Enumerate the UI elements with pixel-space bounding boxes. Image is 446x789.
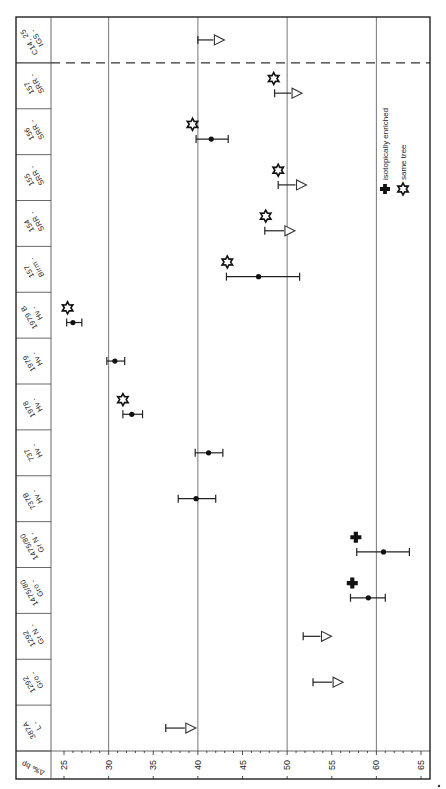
- data-point: [209, 136, 214, 141]
- data-point: [381, 549, 386, 554]
- sample-row: 1292Gr N -: [16, 622, 332, 659]
- lower-limit-triangle-icon: [292, 88, 302, 98]
- sample-label: 157SRR -: [20, 72, 47, 100]
- sample-rows: C14, 25IGS -157SRR -156SRR -155SRR -154S…: [16, 23, 430, 751]
- axis-tick-label: 55: [327, 760, 337, 770]
- sample-label: 387AL -: [21, 715, 46, 740]
- axis-tick-label: 45: [238, 760, 248, 770]
- data-point: [366, 595, 371, 600]
- axis-label: Δ‰ bp: [20, 759, 46, 777]
- star-marker-icon: [269, 73, 279, 85]
- legend-label: isotopically enriched: [381, 108, 390, 180]
- axis-tick-label: 25: [59, 760, 69, 770]
- stray-dot: [438, 785, 440, 787]
- cross-marker-icon: [350, 532, 361, 543]
- sample-row: 1978Hv -: [16, 394, 143, 430]
- data-point: [256, 274, 261, 279]
- value-axis: 253035404550556065Δ‰ bp: [16, 751, 430, 779]
- axis-tick-label: 60: [371, 760, 381, 770]
- star-marker-icon: [222, 256, 232, 268]
- star-marker-icon: [62, 302, 72, 314]
- lower-limit-triangle-icon: [285, 226, 295, 236]
- sample-row: 155SRR -: [16, 163, 307, 200]
- axis-tick-label: 50: [282, 760, 292, 770]
- sample-label: 1979Hv -: [21, 349, 46, 373]
- sample-label: 1978Hv -: [21, 395, 46, 419]
- sample-label: 1292Gro -: [20, 669, 45, 694]
- star-marker-icon: [261, 210, 271, 222]
- star-marker-icon: [118, 394, 128, 406]
- sample-row: 157SRR -: [16, 72, 302, 109]
- sample-label: 1475/80Gr N -: [18, 527, 48, 561]
- sample-row: C14, 25IGS -: [16, 23, 430, 63]
- sample-row: 1292Gro -: [16, 669, 343, 705]
- lower-limit-triangle-icon: [333, 677, 343, 687]
- sample-row: 737Hv -: [16, 442, 223, 476]
- axis-tick-label: 40: [193, 760, 203, 770]
- axis-tick-label: 35: [148, 760, 158, 770]
- sample-row: 157Birm -: [16, 255, 300, 292]
- sample-row: 1475/80Gr N -: [16, 527, 409, 567]
- sample-label: 737BHv -: [21, 486, 46, 511]
- star-marker-icon: [187, 118, 197, 130]
- sample-label: 1979 BHv -: [19, 300, 47, 331]
- sample-row: 156SRR -: [16, 118, 228, 155]
- data-point: [206, 450, 211, 455]
- legend: isotopically enrichedsame tree: [380, 108, 408, 195]
- sample-label: 155SRR -: [20, 163, 47, 191]
- axis-tick-label: 30: [104, 760, 114, 770]
- sample-label: 737Hv -: [21, 442, 44, 464]
- lower-limit-triangle-icon: [214, 35, 224, 45]
- cross-marker-icon: [347, 578, 358, 589]
- lower-limit-triangle-icon: [322, 631, 332, 641]
- data-point: [112, 358, 117, 363]
- sample-label: 156SRR -: [20, 118, 47, 146]
- chart-frame: [16, 17, 430, 779]
- rotated-scatter-chart: C14, 25IGS -157SRR -156SRR -155SRR -154S…: [0, 0, 446, 789]
- sample-row: 737BHv -: [16, 486, 216, 522]
- sample-label: C14, 25IGS -: [18, 23, 48, 57]
- axis-tick-label: 65: [416, 760, 426, 770]
- sample-row: 1475/80Gro -: [16, 573, 385, 613]
- cross-marker-icon: [380, 184, 390, 194]
- sample-row: 387AL -: [16, 715, 196, 751]
- star-marker-icon: [273, 164, 283, 176]
- data-point: [70, 320, 75, 325]
- gridlines: [109, 17, 377, 751]
- data-point: [129, 412, 134, 417]
- legend-label: same tree: [399, 144, 408, 180]
- lower-limit-triangle-icon: [186, 723, 196, 733]
- sample-label: 1475/80Gro -: [18, 573, 48, 607]
- sample-row: 1979 BHv -: [16, 300, 82, 339]
- sample-label: 157Birm -: [20, 255, 47, 283]
- star-marker-icon: [398, 183, 408, 195]
- sample-label: 1292Gr N -: [20, 622, 47, 650]
- data-point: [193, 496, 198, 501]
- sample-label: 154SRR -: [20, 209, 47, 237]
- lower-limit-triangle-icon: [297, 180, 307, 190]
- sample-row: 154SRR -: [16, 209, 295, 246]
